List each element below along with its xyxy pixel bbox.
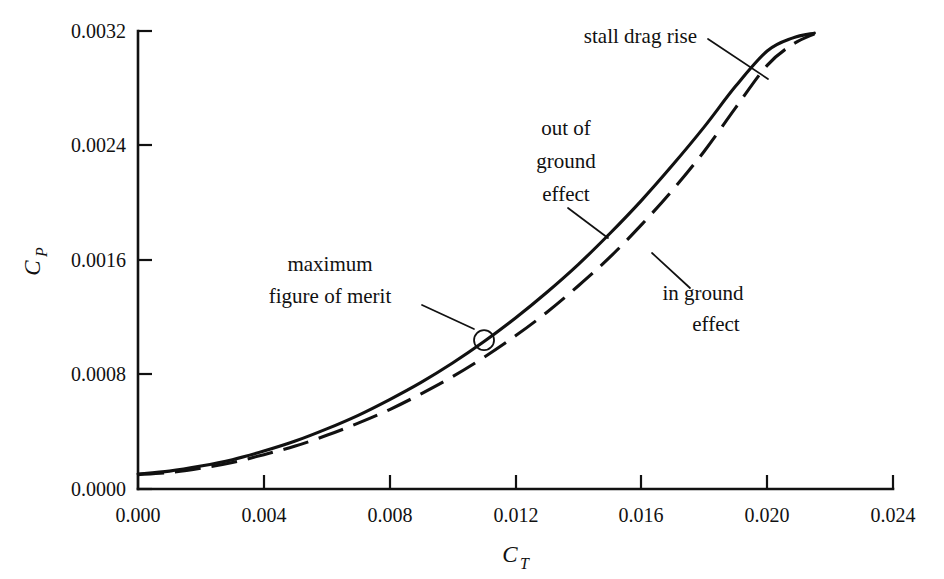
y-axis-ticks bbox=[138, 31, 152, 489]
x-tick-label-1: 0.004 bbox=[242, 504, 287, 526]
curve-in-ground-effect bbox=[138, 34, 814, 475]
annotation-out-of-ground-effect-line-3: effect bbox=[542, 182, 590, 206]
x-tick-label-3: 0.012 bbox=[494, 504, 539, 526]
annotation-maximum-figure-of-merit-line-2: figure of merit bbox=[269, 284, 392, 308]
y-tick-label-3: 0.0008 bbox=[71, 363, 126, 385]
annotation-stall-drag-rise: stall drag rise bbox=[584, 24, 697, 48]
x-tick-label-2: 0.008 bbox=[368, 504, 413, 526]
x-tick-label-6: 0.024 bbox=[871, 504, 916, 526]
y-tick-label-0: 0.0032 bbox=[71, 20, 126, 42]
y-tick-label-2: 0.0016 bbox=[71, 249, 126, 271]
x-axis-ticks bbox=[138, 475, 893, 489]
x-tick-label-4: 0.016 bbox=[619, 504, 664, 526]
annotation-out-of-ground-effect: out of ground effect bbox=[536, 116, 596, 206]
x-axis-title-subscript: T bbox=[520, 555, 530, 572]
x-tick-label-5: 0.020 bbox=[745, 504, 790, 526]
x-axis-title: C T bbox=[502, 542, 530, 572]
out-of-ground-effect-leader bbox=[568, 208, 608, 238]
maximum-figure-of-merit-leader bbox=[422, 305, 474, 329]
y-axis-title-subscript: P bbox=[33, 247, 50, 258]
annotation-maximum-figure-of-merit-line-1: maximum bbox=[287, 252, 372, 276]
figure-container: 0.0032 0.0024 0.0016 0.0008 0.0000 0.000… bbox=[0, 0, 944, 579]
annotation-out-of-ground-effect-line-1: out of bbox=[541, 116, 591, 140]
annotation-out-of-ground-effect-line-2: ground bbox=[536, 149, 596, 173]
x-axis-tick-labels: 0.000 0.004 0.008 0.012 0.016 0.020 0.02… bbox=[116, 504, 916, 526]
annotation-in-ground-effect-line-2: effect bbox=[692, 312, 740, 336]
cp-vs-ct-chart: 0.0032 0.0024 0.0016 0.0008 0.0000 0.000… bbox=[0, 0, 944, 579]
annotation-in-ground-effect: in ground effect bbox=[662, 281, 744, 336]
annotation-in-ground-effect-line-1: in ground bbox=[662, 281, 744, 305]
y-axis-tick-labels: 0.0032 0.0024 0.0016 0.0008 0.0000 bbox=[71, 20, 126, 500]
x-axis-title-base: C bbox=[502, 542, 518, 567]
y-tick-label-1: 0.0024 bbox=[71, 134, 126, 156]
curve-out-of-ground-effect bbox=[138, 33, 814, 474]
y-axis-title: C P bbox=[20, 247, 50, 276]
y-axis-title-base: C bbox=[20, 260, 45, 276]
x-tick-label-0: 0.000 bbox=[116, 504, 161, 526]
y-tick-label-4: 0.0000 bbox=[71, 478, 126, 500]
annotation-maximum-figure-of-merit: maximum figure of merit bbox=[269, 252, 392, 308]
